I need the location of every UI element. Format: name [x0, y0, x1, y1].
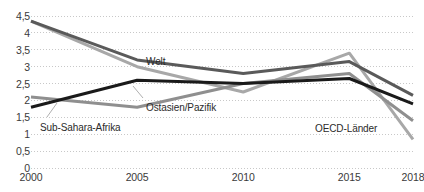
leader-line — [47, 103, 57, 117]
x-axis-tick-label: 2015 — [338, 172, 361, 183]
x-axis-tick-label: 2010 — [232, 172, 255, 183]
leader-line — [133, 86, 143, 98]
series-label-sub-sahara-afrika: Sub-Sahara-Afrika — [40, 123, 121, 133]
y-axis-tick-label: 0,5 — [4, 146, 30, 157]
series-label-oecd-l-nder: OECD-Länder — [315, 124, 377, 134]
series-label-welt: Welt — [146, 57, 165, 67]
y-axis-tick-label: 2,5 — [4, 78, 30, 89]
y-axis-tick-label: 2 — [4, 95, 30, 106]
y-axis-tick-label: 3 — [4, 61, 30, 72]
x-axis-tick-label: 2000 — [20, 172, 43, 183]
y-axis-tick-label: 3,5 — [4, 45, 30, 56]
series-label-ostasien-pazifik: Ostasien/Pazifik — [146, 103, 216, 113]
y-axis: 00,511,522,533,544,5 — [0, 0, 30, 192]
x-axis-tick-label: 2005 — [126, 172, 149, 183]
y-axis-tick-label: 1,5 — [4, 112, 30, 123]
x-axis-tick-label: 2018 — [402, 172, 424, 183]
y-axis-tick-label: 4 — [4, 28, 30, 39]
y-axis-tick-label: 1 — [4, 129, 30, 140]
y-axis-tick-label: 4,5 — [4, 11, 30, 22]
